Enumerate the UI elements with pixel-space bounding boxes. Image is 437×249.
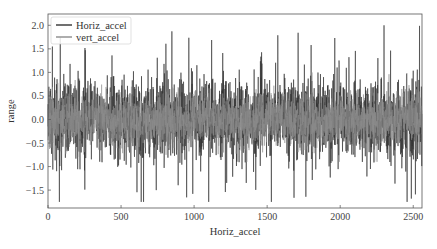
legend-label-vert-accel: vert_accel — [76, 32, 119, 43]
x-tick-label: 2000 — [330, 211, 350, 222]
y-tick-label: 2.0 — [32, 20, 45, 31]
y-tick-label: 0.5 — [32, 90, 45, 101]
x-tick-label: 1500 — [257, 211, 277, 222]
line-chart: 05001000150020002500 −1.5−1.0−0.50.00.51… — [0, 0, 437, 249]
y-tick-label: 1.0 — [32, 67, 45, 78]
y-axis-ticks: −1.5−1.0−0.50.00.51.01.52.0 — [26, 20, 51, 196]
y-tick-label: 1.5 — [32, 43, 45, 54]
y-tick-label: 0.0 — [32, 114, 45, 125]
x-axis-ticks: 05001000150020002500 — [46, 205, 424, 222]
x-tick-label: 0 — [46, 211, 51, 222]
x-axis-label: Horiz_accel — [210, 226, 261, 237]
y-tick-label: −1.0 — [26, 161, 44, 172]
y-tick-label: −0.5 — [26, 138, 44, 149]
x-tick-label: 500 — [114, 211, 129, 222]
x-tick-label: 1000 — [184, 211, 204, 222]
y-axis-label: range — [5, 99, 16, 123]
y-tick-label: −1.5 — [26, 185, 44, 196]
legend: Horiz_accel vert_accel — [51, 17, 131, 44]
series-vert-accel — [48, 72, 422, 161]
legend-label-horiz-accel: Horiz_accel — [76, 20, 127, 31]
x-tick-label: 2500 — [403, 211, 423, 222]
plot-series — [48, 25, 422, 202]
